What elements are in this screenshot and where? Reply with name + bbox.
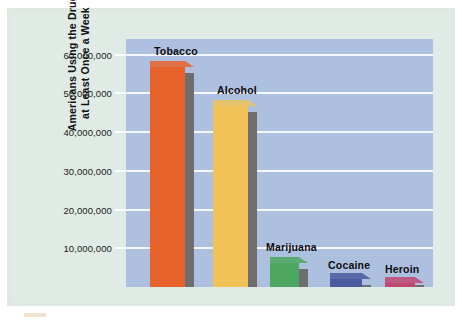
y-axis-tick-label: 50,000,000 — [63, 88, 112, 99]
y-axis-tick-label: 10,000,000 — [63, 243, 112, 254]
bar-face — [270, 263, 299, 287]
y-axis-tick-labels: 10,000,00020,000,00030,000,00040,000,000… — [0, 0, 126, 322]
bar-side-shadow — [299, 269, 308, 287]
y-axis-tick-label: 20,000,000 — [63, 204, 112, 215]
bar-tobacco[interactable] — [150, 67, 185, 287]
bar-face — [150, 67, 185, 287]
bar-side-shadow — [185, 73, 194, 287]
bar-side-shadow — [362, 285, 371, 287]
bar-label-tobacco: Tobacco — [154, 45, 198, 57]
bar-side-shadow — [248, 112, 257, 287]
bar-alcohol[interactable] — [213, 106, 248, 287]
bar-top-face — [270, 257, 308, 263]
bar-top-face — [213, 100, 257, 106]
y-axis-tick — [115, 170, 125, 172]
y-axis-tick — [115, 247, 125, 249]
bar-label-heroin: Heroin — [385, 263, 419, 275]
y-axis-tick — [115, 92, 125, 94]
bar-cocaine[interactable] — [330, 279, 362, 287]
bar-heroin[interactable] — [385, 283, 415, 287]
y-axis-tick — [115, 131, 125, 133]
bar-label-marijuana: Marijuana — [266, 241, 317, 253]
bar-top-face — [385, 277, 424, 283]
bar-label-alcohol: Alcohol — [217, 84, 257, 96]
y-axis-tick — [115, 209, 125, 211]
y-axis-tick-label: 60,000,000 — [63, 49, 112, 60]
bar-top-face — [150, 61, 194, 67]
bar-label-cocaine: Cocaine — [328, 259, 370, 271]
y-axis-tick-label: 30,000,000 — [63, 165, 112, 176]
bar-marijuana[interactable] — [270, 263, 299, 287]
bar-face — [330, 279, 362, 287]
plot-area: TobaccoAlcoholMarijuanaCocaineHeroin — [126, 39, 433, 287]
bar-face — [385, 283, 415, 287]
bar-side-shadow — [415, 285, 424, 287]
chart-figure: Americans Using the Drug at Least Once a… — [0, 0, 462, 322]
bar-face — [213, 106, 248, 287]
y-axis-tick — [115, 54, 125, 56]
y-axis-tick-label: 40,000,000 — [63, 127, 112, 138]
bar-top-face — [330, 273, 371, 279]
